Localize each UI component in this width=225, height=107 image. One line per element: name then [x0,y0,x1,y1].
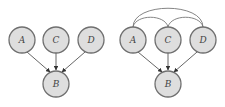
edge-a-to-b [138,52,162,72]
node-d: D [190,27,216,53]
arc-a-d [133,8,203,27]
edge-d-to-b [174,52,197,72]
node-c: C [43,27,69,53]
node-c: C [155,27,181,53]
node-b: B [43,71,69,97]
edge-d-to-b [62,52,85,72]
arc-a-c [133,17,168,27]
node-label: A [18,35,26,45]
node-a: A [120,27,146,53]
node-label: D [86,35,94,45]
node-label: C [53,35,60,45]
left-graph: A C D B [9,27,104,97]
node-label: A [129,35,137,45]
node-b: B [155,71,181,97]
right-graph: A C D B [120,8,216,97]
node-label: D [198,35,206,45]
arc-c-d [168,17,203,27]
node-a: A [9,27,35,53]
node-label: B [52,79,60,89]
node-label: C [165,35,172,45]
node-d: D [78,27,104,53]
diagram-canvas: A C D B A C D [0,0,225,107]
node-label: B [164,79,172,89]
edge-a-to-b [27,52,50,72]
